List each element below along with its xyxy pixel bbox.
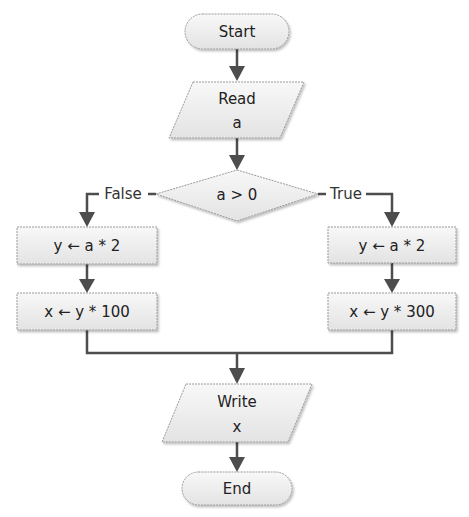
false-assign-x-label: x ← y * 100 bbox=[44, 303, 130, 321]
false-label: False bbox=[104, 185, 142, 203]
true-branch-line bbox=[366, 194, 392, 214]
true-label: True bbox=[329, 185, 362, 203]
false-assign-x-node: x ← y * 100 bbox=[17, 293, 157, 330]
write-node: Write x bbox=[162, 384, 312, 442]
write-label: Write bbox=[217, 393, 257, 411]
arrowhead-icon bbox=[229, 457, 245, 472]
write-variable: x bbox=[233, 418, 242, 436]
read-label: Read bbox=[218, 90, 256, 108]
arrowhead-icon bbox=[229, 155, 245, 170]
true-assign-x-node: x ← y * 300 bbox=[328, 293, 456, 330]
decision-label: a > 0 bbox=[217, 186, 258, 204]
false-branch-line bbox=[87, 194, 99, 214]
arrowhead-icon bbox=[79, 212, 95, 227]
true-assign-y-node: y ← a * 2 bbox=[328, 227, 456, 263]
start-label: Start bbox=[219, 23, 256, 41]
read-node: Read a bbox=[169, 82, 304, 138]
true-assign-x-label: x ← y * 300 bbox=[349, 303, 435, 321]
end-node: End bbox=[182, 472, 292, 505]
arrowhead-icon bbox=[79, 279, 95, 293]
start-node: Start bbox=[185, 14, 289, 49]
arrowhead-icon bbox=[229, 66, 245, 81]
read-variable: a bbox=[232, 114, 241, 132]
flowchart-canvas: False True Start Read a a > 0 y ← a * 2 … bbox=[0, 0, 469, 517]
true-assign-y-label: y ← a * 2 bbox=[359, 237, 426, 255]
end-label: End bbox=[223, 480, 252, 498]
false-assign-y-node: y ← a * 2 bbox=[17, 227, 157, 264]
arrowhead-icon bbox=[229, 368, 245, 384]
merge-line bbox=[87, 330, 392, 353]
arrowhead-icon bbox=[384, 212, 400, 227]
false-assign-y-label: y ← a * 2 bbox=[54, 237, 121, 255]
decision-node: a > 0 bbox=[156, 170, 318, 221]
arrowhead-icon bbox=[384, 279, 400, 293]
